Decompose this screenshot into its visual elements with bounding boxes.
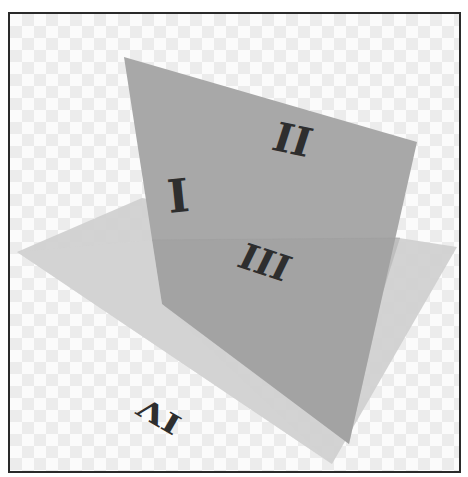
planes-diagram: I II III IV: [10, 14, 461, 473]
figure-frame: I II III IV: [8, 12, 461, 473]
quadrant-label-iv: IV: [131, 390, 187, 441]
